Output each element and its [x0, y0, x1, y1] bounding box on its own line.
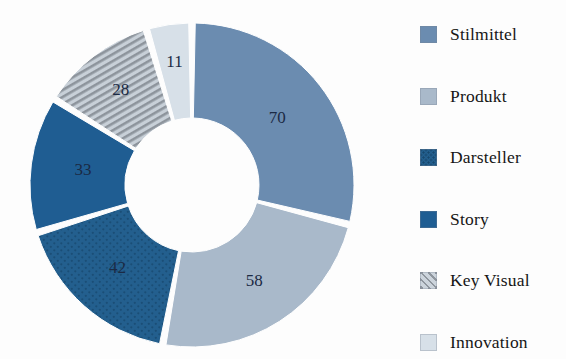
legend-item-story[interactable]: Story	[412, 189, 566, 251]
legend-label-produkt: Produkt	[450, 88, 507, 106]
donut-slice-label-produkt: 58	[246, 271, 263, 290]
chart-legend: StilmittelProduktDarstellerStoryKey Visu…	[412, 0, 566, 359]
legend-swatch-darsteller	[420, 149, 437, 166]
legend-swatch-innovation	[420, 334, 437, 351]
legend-label-innovation: Innovation	[450, 334, 528, 352]
legend-item-produkt[interactable]: Produkt	[412, 66, 566, 128]
legend-swatch-key-visual	[420, 272, 437, 289]
legend-label-key-visual: Key Visual	[450, 272, 530, 290]
donut-slice-label-stilmittel: 70	[269, 108, 286, 127]
donut-slices-group	[30, 23, 354, 347]
donut-slice-label-innovation: 11	[166, 52, 182, 71]
legend-label-darsteller: Darsteller	[450, 149, 521, 167]
legend-swatch-story	[420, 211, 437, 228]
legend-item-darsteller[interactable]: Darsteller	[412, 127, 566, 189]
legend-label-stilmittel: Stilmittel	[450, 26, 517, 44]
donut-slice-label-story: 33	[74, 160, 91, 179]
legend-item-innovation[interactable]: Innovation	[412, 312, 566, 359]
legend-item-stilmittel[interactable]: Stilmittel	[412, 4, 566, 66]
legend-label-story: Story	[450, 211, 489, 229]
donut-slice-label-darsteller: 42	[109, 258, 126, 277]
legend-swatch-stilmittel	[420, 26, 437, 43]
legend-swatch-produkt	[420, 88, 437, 105]
donut-chart-svg: 705842332811	[0, 0, 400, 359]
legend-item-key-visual[interactable]: Key Visual	[412, 250, 566, 312]
donut-slice-label-key-visual: 28	[112, 80, 129, 99]
donut-chart-page: 705842332811 StilmittelProduktDarsteller…	[0, 0, 566, 359]
donut-chart-area: 705842332811	[0, 0, 400, 359]
